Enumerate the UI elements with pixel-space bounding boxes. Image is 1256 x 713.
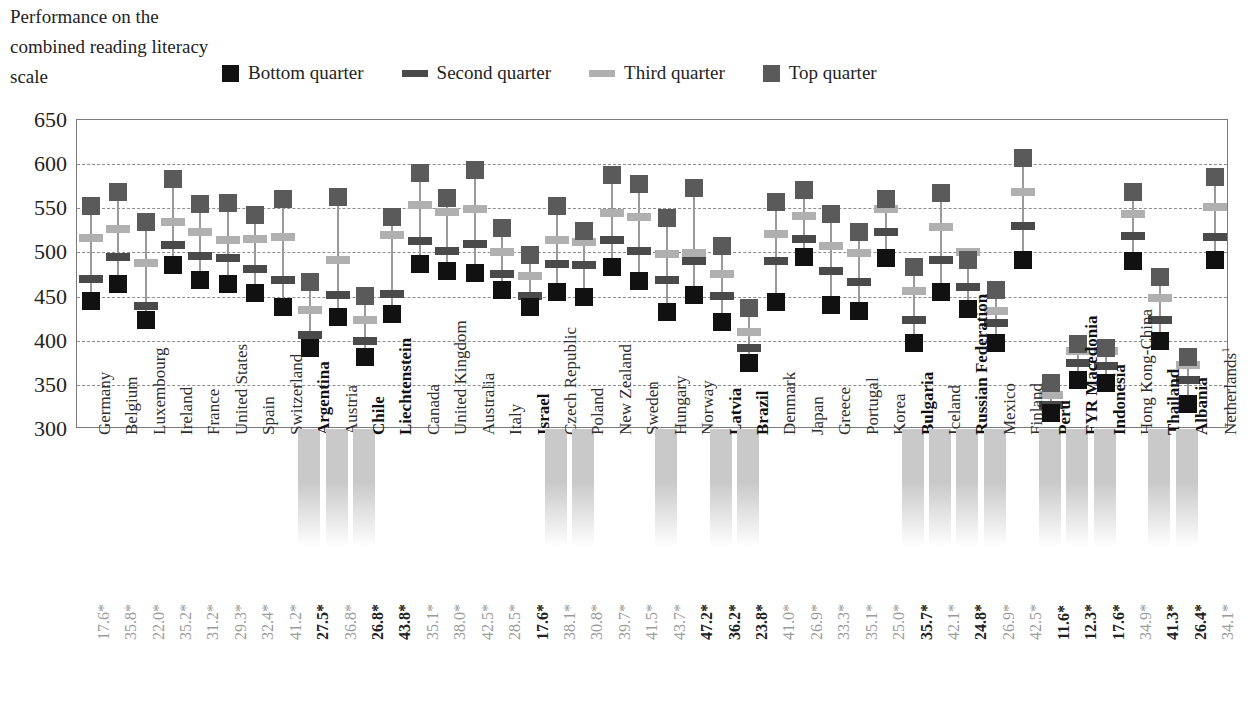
percent-value: 42.1* bbox=[946, 604, 962, 640]
marker-third-quarter bbox=[655, 250, 679, 258]
marker-third-quarter bbox=[353, 316, 377, 324]
percent-value: 26.4* bbox=[1193, 604, 1209, 640]
marker-bottom-quarter bbox=[658, 303, 676, 321]
marker-top-quarter bbox=[548, 197, 566, 215]
marker-top-quarter bbox=[575, 222, 593, 240]
range-stem bbox=[90, 206, 92, 301]
x-axis-tick-label: Australia bbox=[480, 373, 497, 435]
marker-bottom-quarter bbox=[713, 313, 731, 331]
category-highlight-band bbox=[572, 429, 594, 547]
legend-label: Bottom quarter bbox=[248, 62, 364, 84]
x-axis-tick-label: Spain bbox=[260, 396, 277, 435]
marker-bottom-quarter bbox=[932, 283, 950, 301]
marker-second-quarter bbox=[902, 316, 926, 324]
marker-top-quarter bbox=[82, 197, 100, 215]
y-axis-tick-label: 350 bbox=[9, 374, 67, 396]
x-axis-tick-label: Italy bbox=[507, 404, 524, 435]
marker-third-quarter bbox=[106, 225, 130, 233]
marker-top-quarter bbox=[1124, 183, 1142, 201]
legend-item-bottom-quarter[interactable]: Bottom quarter bbox=[222, 62, 364, 84]
marker-second-quarter bbox=[106, 253, 130, 261]
x-axis-tick-label: FYR Macedonia bbox=[1083, 316, 1100, 435]
x-axis-tick-label: Ireland bbox=[178, 387, 195, 435]
data-column[interactable] bbox=[818, 120, 845, 427]
range-stem bbox=[1022, 158, 1024, 260]
marker-top-quarter bbox=[109, 183, 127, 201]
marker-second-quarter bbox=[764, 257, 788, 265]
marker-third-quarter bbox=[326, 256, 350, 264]
percent-value: 12.3* bbox=[1083, 604, 1099, 640]
marker-second-quarter bbox=[929, 256, 953, 264]
marker-third-quarter bbox=[408, 201, 432, 209]
category-highlight-band bbox=[1176, 429, 1198, 547]
marker-third-quarter bbox=[79, 234, 103, 242]
percent-value: 26.8* bbox=[370, 604, 386, 640]
marker-second-quarter bbox=[134, 302, 158, 310]
range-stem bbox=[1132, 192, 1134, 261]
percent-value: 35.1* bbox=[425, 604, 441, 640]
legend-label: Top quarter bbox=[789, 62, 877, 84]
percent-value: 35.7* bbox=[919, 604, 935, 640]
x-axis-tick-label: New Zealand bbox=[617, 344, 634, 435]
percent-value: 30.8* bbox=[589, 604, 605, 640]
data-column[interactable] bbox=[187, 120, 214, 427]
x-axis-tick-label: Luxembourg bbox=[151, 347, 168, 435]
marker-third-quarter bbox=[380, 231, 404, 239]
percent-value: 36.2* bbox=[727, 604, 743, 640]
marker-third-quarter bbox=[710, 270, 734, 278]
percent-value: 32.4* bbox=[260, 604, 276, 640]
percent-value: 41.5* bbox=[644, 604, 660, 640]
data-column[interactable] bbox=[1037, 120, 1064, 427]
category-highlight-band bbox=[929, 429, 951, 547]
category-highlight-band bbox=[956, 429, 978, 547]
marker-second-quarter bbox=[792, 235, 816, 243]
x-axis-tick-label: Bulgaria bbox=[919, 372, 936, 435]
chart-legend: Bottom quarter Second quarter Third quar… bbox=[222, 62, 877, 84]
category-highlight-band bbox=[710, 429, 732, 547]
data-column[interactable] bbox=[1010, 120, 1037, 427]
category-highlight-band bbox=[737, 429, 759, 547]
marker-third-quarter bbox=[1011, 188, 1035, 196]
legend-item-top-quarter[interactable]: Top quarter bbox=[763, 62, 877, 84]
marker-second-quarter bbox=[380, 290, 404, 298]
range-stem bbox=[419, 173, 421, 264]
legend-label: Third quarter bbox=[624, 62, 725, 84]
data-column[interactable] bbox=[516, 120, 543, 427]
marker-third-quarter bbox=[435, 208, 459, 216]
marker-bottom-quarter bbox=[191, 271, 209, 289]
legend-item-second-quarter[interactable]: Second quarter bbox=[402, 62, 551, 84]
marker-top-quarter bbox=[795, 181, 813, 199]
legend-item-third-quarter[interactable]: Third quarter bbox=[589, 62, 725, 84]
percent-value: 17.6* bbox=[535, 604, 551, 640]
percent-value: 33.3* bbox=[836, 604, 852, 640]
range-stem bbox=[556, 206, 558, 293]
x-axis-tick-label: United States bbox=[233, 344, 250, 435]
x-axis-tick-label: Indonesia bbox=[1111, 364, 1128, 435]
y-axis-tick-label: 650 bbox=[9, 109, 67, 131]
marker-bottom-quarter bbox=[603, 258, 621, 276]
percent-row: 17.6*35.8*22.0*35.2*31.2*29.3*32.4*41.2*… bbox=[76, 636, 1228, 713]
x-axis-labels: GermanyBelgiumLuxembourgIrelandFranceUni… bbox=[76, 429, 1228, 629]
x-axis-tick-label: Liechtenstein bbox=[397, 338, 414, 435]
marker-second-quarter bbox=[408, 237, 432, 245]
data-column[interactable] bbox=[735, 120, 762, 427]
x-axis-tick-label: United Kingdom bbox=[452, 320, 469, 435]
marker-top-quarter bbox=[905, 258, 923, 276]
range-stem bbox=[940, 193, 942, 292]
marker-second-quarter bbox=[819, 267, 843, 275]
marker-bottom-quarter bbox=[383, 305, 401, 323]
x-axis-tick-label: Latvia bbox=[727, 388, 744, 435]
marker-third-quarter bbox=[929, 223, 953, 231]
category-highlight-band bbox=[1039, 429, 1061, 547]
marker-bottom-quarter bbox=[82, 292, 100, 310]
data-column[interactable] bbox=[351, 120, 378, 427]
marker-bottom-quarter bbox=[164, 256, 182, 274]
marker-second-quarter bbox=[874, 228, 898, 236]
marker-third-quarter bbox=[271, 233, 295, 241]
marker-third-quarter bbox=[161, 218, 185, 226]
x-axis-tick-label: Switzerland bbox=[288, 354, 305, 435]
range-stem bbox=[638, 184, 640, 280]
percent-value: 38.1* bbox=[562, 604, 578, 640]
marker-top-quarter bbox=[603, 166, 621, 184]
x-axis-tick-label: Czech Republic bbox=[562, 327, 579, 435]
